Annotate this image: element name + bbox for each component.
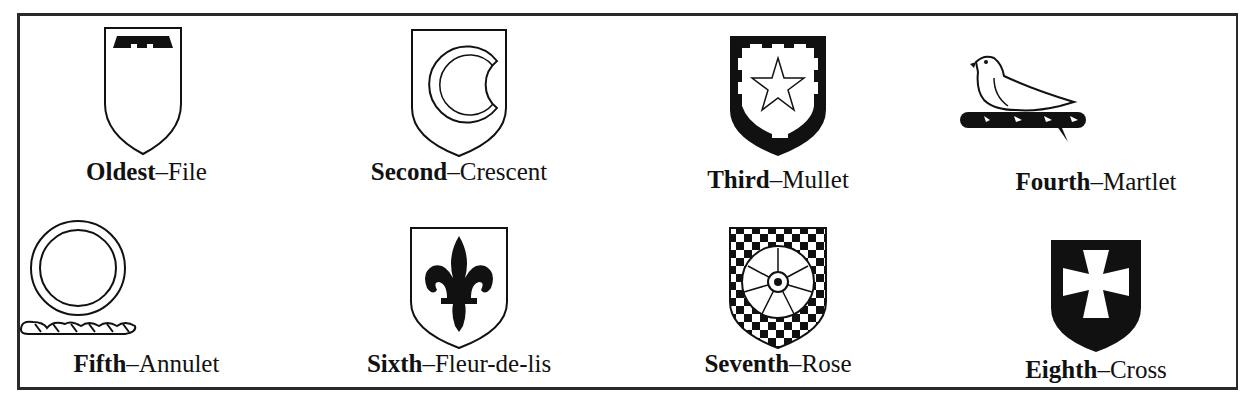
mullet-star-icon xyxy=(728,34,828,159)
cadency-label: Seventh–Rose xyxy=(628,350,928,378)
fleur-de-lis-icon xyxy=(409,226,509,351)
cadency-label: Fourth–Martlet xyxy=(946,168,1246,196)
cadency-label: Eighth–Cross xyxy=(946,356,1246,384)
rose-icon xyxy=(728,226,828,351)
martlet-bird-icon xyxy=(954,50,1094,150)
crescent-icon xyxy=(409,28,509,158)
cadency-item-third: Third–Mullet xyxy=(628,22,928,212)
cadency-label: Third–Mullet xyxy=(628,166,928,194)
cadency-item-fourth: Fourth–Martlet xyxy=(946,22,1246,212)
file-label-icon xyxy=(103,26,183,156)
annulet-ring-icon xyxy=(13,218,143,338)
cadency-item-fifth: Fifth–Annulet xyxy=(0,210,300,400)
cadency-label: Sixth–Fleur-de-lis xyxy=(309,350,609,378)
cadency-item-second: Second–Crescent xyxy=(309,22,609,212)
cross-moline-icon xyxy=(1049,238,1143,353)
cadency-label: Fifth–Annulet xyxy=(0,350,300,378)
cadency-item-eighth: Eighth–Cross xyxy=(946,210,1246,400)
cadency-item-seventh: Seventh–Rose xyxy=(628,210,928,400)
cadency-item-oldest: Oldest–File xyxy=(0,22,300,212)
cadency-item-sixth: Sixth–Fleur-de-lis xyxy=(309,210,609,400)
cadency-label: Second–Crescent xyxy=(309,158,609,186)
cadency-label: Oldest–File xyxy=(0,158,300,186)
